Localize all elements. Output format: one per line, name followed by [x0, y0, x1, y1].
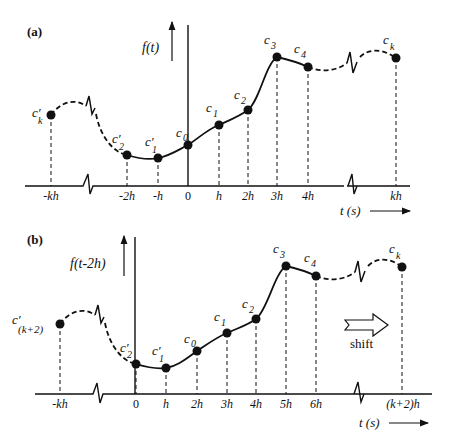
svg-text:c: c [206, 100, 212, 115]
svg-text:c: c [383, 32, 389, 47]
panel-a-points [47, 53, 401, 163]
svg-text:0: 0 [185, 189, 191, 203]
svg-text:c: c [294, 41, 300, 56]
svg-text:k: k [396, 250, 401, 261]
svg-text:2: 2 [249, 304, 254, 315]
svg-text:2h: 2h [242, 189, 254, 203]
svg-text:-kh: -kh [52, 397, 67, 411]
svg-text:3h: 3h [220, 397, 233, 411]
panel-a-label: (a) [27, 24, 42, 39]
svg-text:4: 4 [301, 49, 306, 60]
svg-text:kh: kh [390, 189, 401, 203]
svg-text:c: c [273, 241, 279, 256]
panel-b-tick-labels: -kh 0 h 2h 3h 4h 5h 6h (k+2)h [52, 397, 419, 411]
svg-text:0: 0 [183, 132, 188, 143]
panel-a-y-axis-label: f(t) [142, 40, 159, 56]
panel-b-x-axis-label: t (s) [359, 415, 380, 430]
svg-text:c: c [304, 250, 310, 265]
svg-text:1: 1 [159, 353, 164, 364]
panel-b-y-axis-label: f(t-2h) [70, 256, 106, 272]
panel-b-curve-right-dashed [316, 272, 355, 279]
panel-a-axis-break-right [348, 174, 357, 194]
panel-a-curve-left-dashed [51, 102, 86, 115]
svg-text:-2h: -2h [119, 189, 135, 203]
svg-text:c: c [234, 87, 240, 102]
time-shift-diagram: (a) f(t) [0, 0, 455, 447]
svg-text:0: 0 [191, 338, 196, 349]
svg-text:4h: 4h [302, 189, 314, 203]
svg-text:k: k [390, 41, 395, 52]
svg-text:h: h [216, 189, 222, 203]
svg-text:c: c [264, 32, 270, 47]
svg-text:3: 3 [279, 249, 285, 260]
svg-text:2: 2 [241, 95, 246, 106]
panel-a-curve-break-left [86, 96, 95, 114]
panel-a-curve-break-right [347, 52, 357, 73]
panel-b-label: (b) [27, 232, 43, 247]
svg-text:1: 1 [213, 108, 218, 119]
svg-text:4h: 4h [250, 397, 262, 411]
panel-a-point-labels: c′k c′2 c′1 c0 c1 c2 c3 c4 ck [32, 32, 395, 155]
svg-text:c: c [242, 296, 248, 311]
svg-text:2: 2 [127, 349, 132, 360]
svg-text:h: h [163, 397, 169, 411]
panel-b-curve-break-right [355, 261, 365, 282]
panel-b-points [56, 262, 407, 373]
panel-b-curve-left-dashed [60, 311, 95, 324]
svg-text:c: c [389, 241, 395, 256]
panel-b-curve-break-left [95, 305, 104, 323]
svg-text:2h: 2h [191, 397, 203, 411]
svg-text:k: k [38, 115, 43, 126]
svg-text:5h: 5h [280, 397, 292, 411]
svg-text:1: 1 [152, 144, 157, 155]
svg-text:6h: 6h [310, 397, 322, 411]
panel-a-tick-labels: -kh -2h -h 0 h 2h 3h 4h kh [43, 189, 401, 203]
shift-arrow-icon [345, 314, 388, 336]
panel-a-curve-right-dashed [308, 63, 347, 70]
svg-text:3: 3 [270, 40, 276, 51]
svg-text:c: c [176, 125, 182, 140]
svg-text:c: c [214, 309, 220, 324]
shift-label: shift [350, 336, 374, 351]
svg-text:-h: -h [153, 189, 163, 203]
svg-text:-kh: -kh [43, 189, 58, 203]
panel-b: (b) f(t-2h) [12, 232, 432, 430]
svg-text:(k+2): (k+2) [18, 323, 43, 336]
panel-a-drop-lines [51, 57, 396, 186]
panel-a-x-axis-label: t (s) [340, 203, 361, 218]
svg-text:0: 0 [133, 397, 139, 411]
svg-text:2: 2 [119, 141, 124, 152]
svg-text:(k+2)h: (k+2)h [386, 397, 419, 411]
panel-b-axis-break-right [354, 382, 364, 402]
panel-b-x-axis [35, 383, 432, 403]
svg-text:4: 4 [311, 258, 316, 269]
svg-text:1: 1 [221, 317, 226, 328]
svg-text:3h: 3h [270, 189, 283, 203]
panel-a: (a) f(t) [25, 22, 410, 218]
svg-text:c: c [184, 331, 190, 346]
